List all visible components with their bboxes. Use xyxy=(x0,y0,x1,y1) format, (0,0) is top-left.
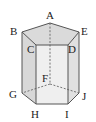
vertex-label-I: I xyxy=(65,108,69,120)
vertex-label-C: C xyxy=(27,43,34,55)
vertex-label-A: A xyxy=(46,9,54,21)
vertex-label-J: J xyxy=(82,90,87,102)
pentagonal-prism-diagram: A B E C D F G J H I xyxy=(0,0,96,122)
front-face xyxy=(36,45,68,104)
vertex-label-E: E xyxy=(81,25,88,37)
vertex-label-B: B xyxy=(10,25,17,37)
vertex-label-F: F xyxy=(42,72,48,84)
vertex-label-H: H xyxy=(31,108,39,120)
vertex-label-G: G xyxy=(9,88,17,100)
vertex-label-D: D xyxy=(68,43,76,55)
